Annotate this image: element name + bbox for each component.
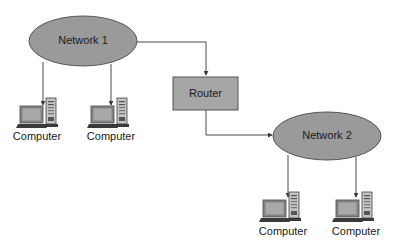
network1-label: Network 1 — [53, 34, 113, 46]
edge-network1-router — [137, 42, 206, 75]
computer-icon — [332, 192, 374, 222]
network2-label: Network 2 — [297, 129, 357, 141]
computer-icon — [87, 98, 129, 128]
computer3-label: Computer — [248, 225, 318, 237]
edge-router-network2 — [206, 110, 272, 135]
computer-icon — [16, 98, 58, 128]
computer2-label: Computer — [76, 130, 146, 142]
router-label: Router — [173, 87, 238, 99]
computer1-label: Computer — [2, 130, 72, 142]
computer4-label: Computer — [321, 225, 391, 237]
computer-icon — [259, 192, 301, 222]
